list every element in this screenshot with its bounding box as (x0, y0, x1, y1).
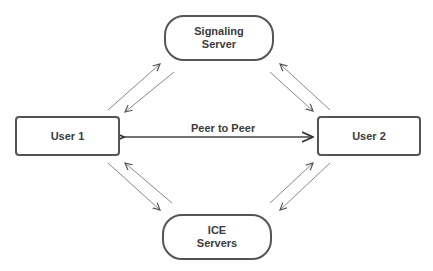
node-user-1: User 1 (15, 116, 120, 156)
node-ice-servers: ICE Servers (162, 214, 272, 260)
arrow-user1-to-signaling (108, 64, 160, 110)
ice-label-line2: Servers (197, 237, 237, 250)
peer-to-peer-label: Peer to Peer (191, 122, 255, 134)
user2-label: User 2 (352, 130, 386, 143)
ice-label-line1: ICE (197, 224, 237, 237)
signaling-label-line1: Signaling (194, 25, 244, 38)
signaling-label-line2: Server (194, 38, 244, 51)
arrow-ice-to-user2 (270, 163, 313, 203)
arrow-ice-to-user1 (125, 163, 172, 203)
node-user-2: User 2 (317, 116, 421, 156)
node-signaling-server: Signaling Server (164, 15, 274, 61)
arrow-signaling-to-user1 (125, 72, 174, 112)
arrow-signaling-to-user2 (270, 72, 313, 111)
user1-label: User 1 (51, 130, 85, 143)
